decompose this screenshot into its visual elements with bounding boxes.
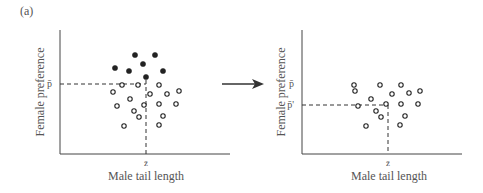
open-point [356, 104, 360, 108]
filled-point [143, 74, 148, 79]
open-point [136, 83, 140, 87]
open-point [398, 123, 402, 127]
y-axis-label: Female preference [33, 48, 47, 137]
open-point [379, 115, 383, 119]
open-point [161, 114, 165, 118]
p-bar-label: p̄ [289, 78, 294, 89]
open-point [115, 104, 119, 108]
filled-point [140, 61, 145, 66]
open-point [148, 92, 152, 96]
open-point [122, 124, 126, 128]
open-point [111, 90, 115, 94]
filled-point [132, 52, 137, 57]
open-point [174, 102, 178, 106]
p-bar-label: p̄ [47, 78, 52, 89]
open-point [157, 102, 161, 106]
x-axis-label: Male tail length [351, 169, 427, 183]
open-point [165, 92, 169, 96]
open-point [137, 115, 141, 119]
open-point [369, 97, 373, 101]
open-point [384, 102, 388, 106]
open-point [418, 89, 422, 93]
filled-point [160, 68, 165, 73]
open-point [132, 109, 136, 113]
open-point [157, 123, 161, 127]
open-point [399, 83, 403, 87]
open-point [128, 97, 132, 101]
open-point [157, 83, 161, 87]
p-prime-label: p̄' [287, 99, 294, 110]
open-point [416, 102, 420, 106]
open-point [399, 102, 403, 106]
open-point [177, 89, 181, 93]
panel-label: (a) [20, 4, 33, 18]
open-point [403, 114, 407, 118]
z-bar-label: z̄ [144, 158, 148, 168]
filled-point [152, 52, 157, 57]
filled-point [126, 68, 131, 73]
open-point [407, 91, 411, 95]
x-axis-label: Male tail length [108, 169, 184, 183]
left-plot: p̄ z̄ Male tail length Female preference [33, 30, 230, 183]
open-point [364, 124, 368, 128]
right-plot: p̄ p̄' z̄ Male tail length Female prefer… [274, 30, 462, 183]
y-axis-label: Female preference [274, 48, 288, 137]
open-point [378, 83, 382, 87]
open-point [142, 103, 146, 107]
open-point [353, 89, 357, 93]
figure: (a) p̄ z̄ Male tail length Female prefer… [0, 0, 483, 193]
filled-point [112, 65, 117, 70]
z-bar-label: z̄ [386, 158, 390, 168]
open-point [390, 92, 394, 96]
arrow-right-icon [222, 79, 264, 89]
open-point [120, 83, 124, 87]
open-point [374, 109, 378, 113]
open-point [352, 83, 356, 87]
